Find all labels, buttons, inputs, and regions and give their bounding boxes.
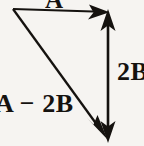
vector-2b xyxy=(101,9,116,143)
vector-diagram-figure: A 2B A − 2B xyxy=(0,0,144,146)
vector-label-a-minus-2b: A − 2B xyxy=(0,91,74,117)
vector-a-minus-2b xyxy=(13,9,108,140)
vector-label-2b: 2B xyxy=(117,59,144,85)
vector-label-a: A xyxy=(45,0,64,12)
